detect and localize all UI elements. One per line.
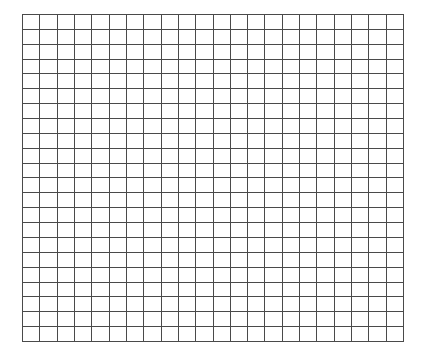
grid-cell xyxy=(300,327,317,342)
grid-cell xyxy=(265,268,282,283)
grid-cell xyxy=(352,268,369,283)
grid-cell xyxy=(387,104,404,119)
grid-cell xyxy=(92,268,109,283)
grid-cell xyxy=(283,178,300,193)
grid-cell xyxy=(300,283,317,298)
grid-cell xyxy=(317,30,334,45)
grid-cell xyxy=(248,193,265,208)
grid-cell xyxy=(144,238,161,253)
grid-cell xyxy=(162,134,179,149)
grid-cell xyxy=(265,312,282,327)
grid-cell xyxy=(352,74,369,89)
grid-cell xyxy=(40,45,57,60)
grid-cell xyxy=(231,30,248,45)
grid-cell xyxy=(214,327,231,342)
grid-cell xyxy=(387,149,404,164)
grid-cell xyxy=(335,60,352,75)
grid-cell xyxy=(162,238,179,253)
grid-cell xyxy=(248,253,265,268)
grid-cell xyxy=(127,74,144,89)
grid-cell xyxy=(75,60,92,75)
grid-cell xyxy=(248,238,265,253)
grid-cell xyxy=(179,178,196,193)
grid-cell xyxy=(283,297,300,312)
grid-cell xyxy=(162,193,179,208)
grid-cell xyxy=(127,45,144,60)
grid-cell xyxy=(127,327,144,342)
grid-cell xyxy=(58,119,75,134)
grid-cell xyxy=(179,327,196,342)
grid-cell xyxy=(214,74,231,89)
grid-cell xyxy=(231,312,248,327)
grid-cell xyxy=(162,297,179,312)
grid-cell xyxy=(40,164,57,179)
grid-cell xyxy=(231,208,248,223)
grid-cell xyxy=(283,253,300,268)
grid-cell xyxy=(387,312,404,327)
grid-cell xyxy=(58,208,75,223)
grid-cell xyxy=(75,268,92,283)
grid-cell xyxy=(144,134,161,149)
grid-cell xyxy=(369,60,386,75)
grid-cell xyxy=(317,164,334,179)
grid-cell xyxy=(92,164,109,179)
grid-cell xyxy=(300,149,317,164)
grid-cell xyxy=(265,283,282,298)
grid-cell xyxy=(317,208,334,223)
grid-cell xyxy=(179,119,196,134)
grid-cell xyxy=(317,178,334,193)
grid-cell xyxy=(265,119,282,134)
grid-cell xyxy=(265,223,282,238)
grid-cell xyxy=(352,104,369,119)
grid-cell xyxy=(231,238,248,253)
grid-cell xyxy=(300,45,317,60)
grid-cell xyxy=(127,208,144,223)
grid-cell xyxy=(352,208,369,223)
grid-cell xyxy=(265,89,282,104)
grid-cell xyxy=(317,60,334,75)
grid-cell xyxy=(335,45,352,60)
grid-cell xyxy=(387,134,404,149)
grid-cell xyxy=(162,45,179,60)
grid-cell xyxy=(214,283,231,298)
grid-cell xyxy=(162,89,179,104)
grid-cell xyxy=(387,283,404,298)
grid-cell xyxy=(58,45,75,60)
grid-cell xyxy=(248,164,265,179)
grid-cell xyxy=(300,74,317,89)
grid-cell xyxy=(144,297,161,312)
grid-cell xyxy=(40,297,57,312)
grid-cell xyxy=(58,297,75,312)
grid-cell xyxy=(352,119,369,134)
grid-cell xyxy=(110,178,127,193)
grid-cell xyxy=(92,178,109,193)
grid-cell xyxy=(387,297,404,312)
grid-cell xyxy=(317,74,334,89)
grid-cell xyxy=(248,104,265,119)
grid-cell xyxy=(248,89,265,104)
grid-cell xyxy=(248,312,265,327)
grid-cell xyxy=(179,15,196,30)
grid-cell xyxy=(248,119,265,134)
grid-cell xyxy=(387,15,404,30)
grid-cell xyxy=(196,89,213,104)
grid-cell xyxy=(40,208,57,223)
grid-cell xyxy=(335,178,352,193)
grid-cell xyxy=(283,104,300,119)
grid-cell xyxy=(75,253,92,268)
grid-cell xyxy=(144,104,161,119)
grid-cell xyxy=(387,60,404,75)
grid-cell xyxy=(231,327,248,342)
grid-cell xyxy=(92,119,109,134)
grid-cell xyxy=(265,74,282,89)
grid-cell xyxy=(110,89,127,104)
grid-cell xyxy=(335,164,352,179)
grid-cell xyxy=(248,60,265,75)
grid-cell xyxy=(75,283,92,298)
grid-cell xyxy=(317,253,334,268)
grid-cell xyxy=(214,223,231,238)
grid-cell xyxy=(369,74,386,89)
grid-cell xyxy=(127,312,144,327)
grid-cell xyxy=(23,30,40,45)
grid-cell xyxy=(231,104,248,119)
